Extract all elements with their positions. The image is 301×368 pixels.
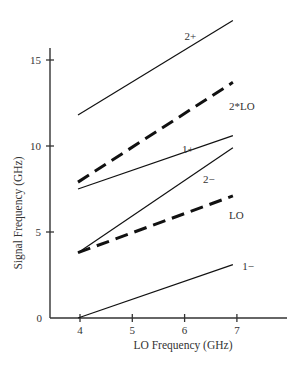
series-label-4: LO: [229, 209, 244, 221]
series-label-3: 2−: [203, 173, 215, 185]
y-tick-label: 10: [30, 140, 42, 152]
y-axis-label: Signal Frequency (GHz): [12, 156, 25, 269]
x-tick-label: 6: [182, 324, 188, 336]
series-label-2: 1+: [182, 143, 194, 155]
series-line-3: [78, 148, 233, 253]
y-tick-label: 0: [37, 312, 43, 324]
chart: 0510154567 2+2*LO1+2−LO1− LO Frequency (…: [0, 0, 301, 368]
axes: 0510154567: [30, 48, 287, 336]
series-line-0: [78, 20, 233, 115]
plot-lines: [78, 20, 233, 318]
series-line-4: [78, 196, 233, 253]
line-labels: 2+2*LO1+2−LO1−: [182, 30, 255, 272]
series-line-5: [78, 265, 233, 318]
series-label-0: 2+: [185, 30, 197, 42]
series-line-1: [78, 82, 233, 182]
y-tick-label: 15: [30, 54, 42, 66]
x-tick-label: 5: [130, 324, 136, 336]
y-tick-label: 5: [36, 226, 42, 238]
series-label-5: 1−: [242, 260, 254, 272]
x-tick-label: 4: [77, 324, 83, 336]
x-tick-label: 7: [234, 324, 240, 336]
series-label-1: 2*LO: [229, 100, 255, 112]
x-axis-label: LO Frequency (GHz): [134, 339, 233, 352]
